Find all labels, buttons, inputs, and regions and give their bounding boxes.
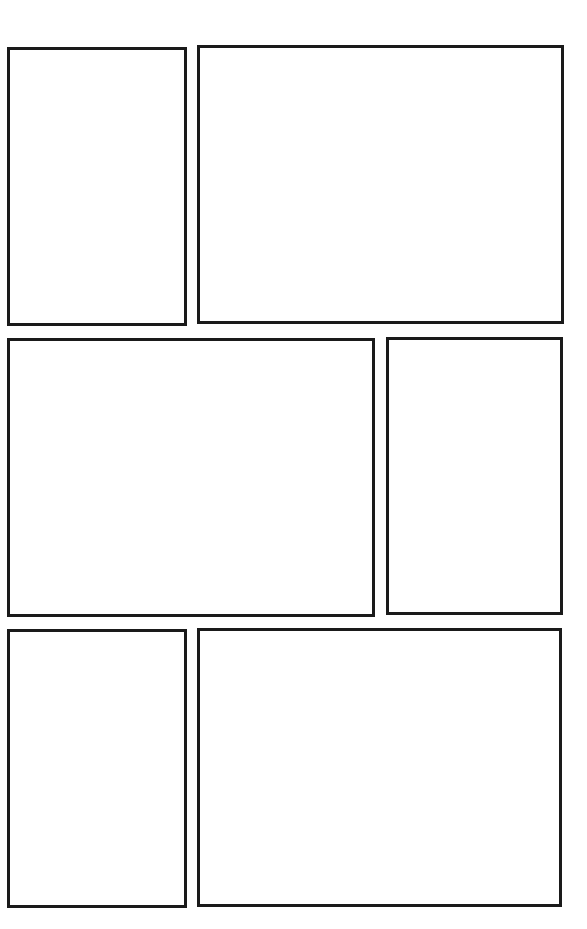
- panel-3: [7, 338, 375, 617]
- panel-2: [197, 45, 564, 324]
- panel-4: [386, 337, 563, 615]
- panel-5: [7, 629, 187, 908]
- comic-page: [0, 0, 587, 929]
- panel-6: [197, 628, 562, 907]
- panel-1: [7, 47, 187, 326]
